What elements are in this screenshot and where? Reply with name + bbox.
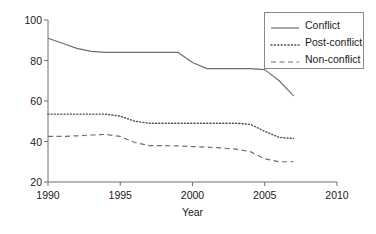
series-line-non-conflict <box>48 134 294 161</box>
legend: ConflictPost-conflictNon-conflict <box>264 12 364 69</box>
legend-label: Non-conflict <box>305 54 360 65</box>
y-tick-label: 60 <box>10 96 42 107</box>
series-line-conflict <box>48 38 294 96</box>
x-tick-label: 1990 <box>26 190 70 201</box>
x-tick-label: 2010 <box>315 190 359 201</box>
y-axis-ticks <box>44 20 48 182</box>
legend-swatch-dashed-line-icon <box>270 54 300 66</box>
x-tick-label: 2000 <box>171 190 215 201</box>
x-axis-title: Year <box>48 207 337 218</box>
y-tick-label: 20 <box>10 177 42 188</box>
x-tick-label: 1995 <box>98 190 142 201</box>
legend-label: Post-conflict <box>305 37 362 48</box>
line-chart: 20406080100 19901995200020052010 Year Co… <box>0 0 376 234</box>
legend-item-non-conflict[interactable]: Non-conflict <box>270 51 360 68</box>
data-series-layer <box>48 38 294 162</box>
y-tick-label: 80 <box>10 56 42 67</box>
legend-swatch-solid-line-icon <box>270 20 300 32</box>
x-axis-ticks <box>48 182 337 186</box>
legend-item-post-conflict[interactable]: Post-conflict <box>270 34 362 51</box>
legend-label: Conflict <box>305 20 340 31</box>
legend-item-conflict[interactable]: Conflict <box>270 17 340 34</box>
legend-swatch-dotted-line-icon <box>270 37 300 49</box>
y-tick-label: 40 <box>10 137 42 148</box>
y-tick-label: 100 <box>10 15 42 26</box>
x-tick-label: 2005 <box>243 190 287 201</box>
